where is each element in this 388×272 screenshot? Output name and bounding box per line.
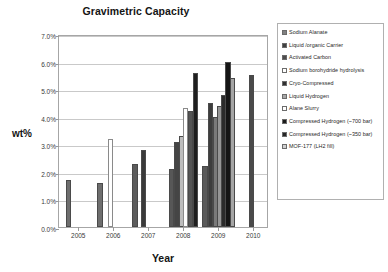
legend-item: Alane Slurry [282, 105, 380, 111]
y-axis-label: wt% [12, 128, 32, 139]
gridline [59, 174, 267, 175]
x-tick-mark [148, 227, 149, 231]
legend-swatch-icon [282, 119, 287, 124]
legend-item: Liquid /organic Carrier [282, 42, 380, 48]
chart-screenshot: Gravimetric Capacity wt% 0.0%1.0%2.0%3.0… [0, 0, 388, 272]
x-tick-mark [113, 227, 114, 231]
legend-item: Sodium Alanate [282, 29, 380, 35]
x-axis-label: Year [58, 252, 268, 264]
y-tick-mark [56, 119, 59, 120]
bar [66, 180, 71, 227]
y-tick-mark [56, 146, 59, 147]
y-tick-mark [56, 91, 59, 92]
gridline [59, 201, 267, 202]
legend-label: MOF-177 (LH2 fill) [289, 143, 334, 149]
bar [141, 150, 146, 227]
legend-label: Activated Carbon [289, 54, 331, 60]
x-tick-mark [78, 227, 79, 231]
bar [108, 139, 113, 227]
legend-item: Compressed Hydrogen (~350 bar) [282, 131, 380, 137]
legend-label: Sodium Alanate [289, 29, 327, 35]
y-tick-label: 2.0% [41, 170, 56, 177]
legend-label: Liquid /organic Carrier [289, 42, 343, 48]
x-tick-label: 2009 [211, 232, 225, 239]
y-tick-mark [56, 229, 59, 230]
gridline [59, 91, 267, 92]
x-tick-mark [218, 227, 219, 231]
y-tick-mark [56, 201, 59, 202]
y-tick-mark [56, 174, 59, 175]
x-tick-mark [253, 227, 254, 231]
y-tick-mark [56, 36, 59, 37]
y-tick-mark [56, 64, 59, 65]
legend-swatch-icon [282, 30, 287, 35]
legend-label: Compressed Hydrogen (~700 bar) [289, 118, 372, 124]
gridline [59, 64, 267, 65]
legend-swatch-icon [282, 94, 287, 99]
bar [169, 169, 174, 227]
gridline [59, 119, 267, 120]
bar [230, 78, 235, 227]
gridline [59, 36, 267, 37]
x-tick-label: 2006 [106, 232, 120, 239]
legend-swatch-icon [282, 144, 287, 149]
y-tick-label: 7.0% [41, 33, 56, 40]
legend-item: Activated Carbon [282, 54, 380, 60]
legend-item: MOF-177 (LH2 fill) [282, 143, 380, 149]
legend-label: Liquid Hydrogen [289, 93, 329, 99]
y-tick-label: 4.0% [41, 115, 56, 122]
legend-swatch-icon [282, 68, 287, 73]
legend-label: Compressed Hydrogen (~350 bar) [289, 131, 372, 137]
x-tick-mark [183, 227, 184, 231]
chart-legend: Sodium AlanateLiquid /organic CarrierAct… [277, 23, 384, 200]
legend-item: Sodium borohydride hydrolysis [282, 67, 380, 73]
legend-label: Alane Slurry [289, 105, 319, 111]
x-tick-label: 2010 [246, 232, 260, 239]
x-tick-label: 2005 [71, 232, 85, 239]
bar [97, 183, 102, 227]
bar [202, 166, 207, 227]
legend-item: Compressed Hydrogen (~700 bar) [282, 118, 380, 124]
bar [132, 164, 137, 227]
page-title: Gravimetric Capacity [0, 5, 272, 17]
legend-swatch-icon [282, 55, 287, 60]
gridline [59, 146, 267, 147]
legend-label: Cryo-Compressed [289, 80, 334, 86]
plot-area: 0.0%1.0%2.0%3.0%4.0%5.0%6.0%7.0%20052006… [58, 35, 268, 228]
x-tick-label: 2007 [141, 232, 155, 239]
legend-swatch-icon [282, 81, 287, 86]
y-tick-label: 5.0% [41, 88, 56, 95]
legend-swatch-icon [282, 106, 287, 111]
legend-swatch-icon [282, 132, 287, 137]
legend-label: Sodium borohydride hydrolysis [289, 67, 364, 73]
legend-item: Cryo-Compressed [282, 80, 380, 86]
y-tick-label: 6.0% [41, 60, 56, 67]
legend-swatch-icon [282, 43, 287, 48]
bar [249, 75, 254, 227]
y-tick-label: 1.0% [41, 198, 56, 205]
bar [193, 73, 198, 227]
y-tick-label: 3.0% [41, 143, 56, 150]
x-tick-label: 2008 [176, 232, 190, 239]
y-tick-label: 0.0% [41, 226, 56, 233]
legend-item: Liquid Hydrogen [282, 93, 380, 99]
